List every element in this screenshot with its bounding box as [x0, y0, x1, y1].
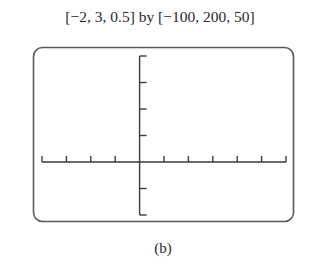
calculator-screen: [0, 0, 316, 272]
axes: [42, 56, 286, 215]
figure-caption: (b): [0, 240, 316, 257]
screen-frame: [34, 48, 294, 222]
